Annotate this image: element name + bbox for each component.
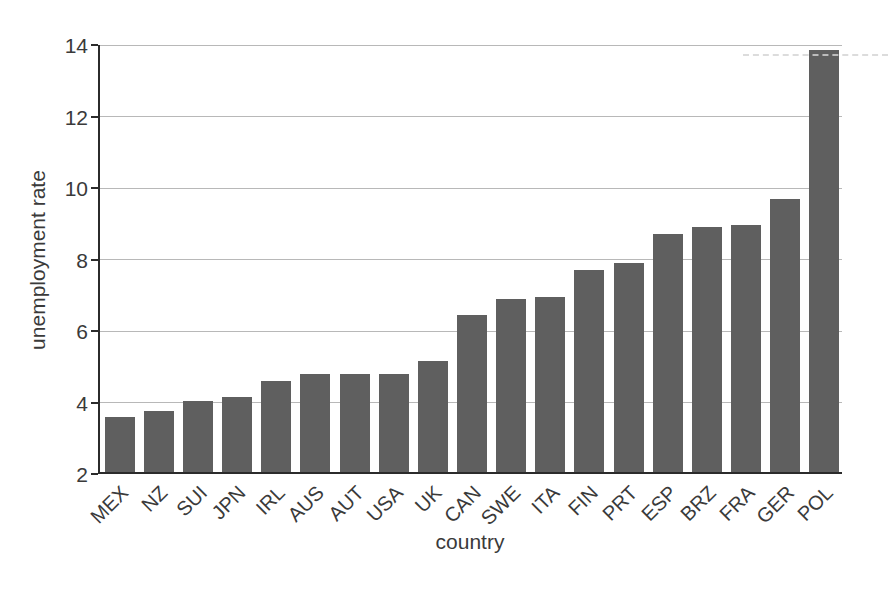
bar-fin [574, 270, 604, 472]
bar-mex [105, 417, 135, 472]
x-tick-label-aus: AUS [284, 482, 327, 525]
bar-ger [770, 199, 800, 472]
bar-sui [183, 401, 213, 473]
x-tick-label-irl: IRL [252, 482, 288, 518]
y-tick-label-8: 8 [50, 250, 88, 271]
bar-uk [418, 361, 448, 472]
bar-fra [731, 225, 761, 472]
x-tick-label-sui: SUI [172, 482, 210, 520]
bar-chart-figure: unemployment rate country 2468101214MEXN… [0, 0, 892, 591]
bar-swe [496, 299, 526, 472]
bar-can [457, 315, 487, 472]
bar-irl [261, 381, 291, 472]
x-tick-label-prt: PRT [599, 482, 641, 524]
y-tick-mark-12 [91, 116, 98, 118]
y-tick-label-4: 4 [50, 393, 88, 414]
x-tick-label-brz: BRZ [677, 482, 719, 524]
bar-prt [614, 263, 644, 472]
plot-area [98, 45, 842, 474]
y-tick-label-6: 6 [50, 321, 88, 342]
y-tick-mark-14 [91, 44, 98, 46]
x-tick-label-mex: MEX [87, 482, 132, 527]
y-tick-label-14: 14 [50, 35, 88, 56]
x-tick-label-ger: GER [753, 482, 798, 527]
bar-ita [535, 297, 565, 472]
gridline-y-10 [100, 188, 842, 189]
y-tick-mark-10 [91, 187, 98, 189]
bar-pol [809, 50, 839, 472]
x-tick-label-can: CAN [440, 482, 484, 526]
bar-brz [692, 227, 722, 472]
bar-esp [653, 234, 683, 472]
bar-nz [144, 411, 174, 472]
bar-usa [379, 374, 409, 472]
x-tick-label-jpn: JPN [208, 482, 249, 523]
y-tick-label-2: 2 [50, 464, 88, 485]
x-tick-label-fin: FIN [565, 482, 602, 519]
x-tick-label-pol: POL [794, 482, 836, 524]
x-tick-label-usa: USA [363, 482, 406, 525]
x-tick-label-fra: FRA [716, 482, 758, 524]
y-axis-title: unemployment rate [26, 170, 50, 350]
y-tick-mark-6 [91, 330, 98, 332]
gridline-y-14 [100, 45, 842, 46]
x-tick-label-aut: AUT [324, 482, 366, 524]
y-tick-mark-2 [91, 473, 98, 475]
bar-aut [340, 374, 370, 472]
gridline-y-12 [100, 116, 842, 117]
x-tick-label-esp: ESP [637, 482, 679, 524]
y-tick-label-12: 12 [50, 107, 88, 128]
x-tick-label-swe: SWE [477, 482, 523, 528]
y-tick-mark-4 [91, 402, 98, 404]
x-tick-label-nz: NZ [138, 482, 171, 515]
x-tick-label-ita: ITA [527, 482, 562, 517]
x-axis-title: country [98, 530, 842, 554]
bar-jpn [222, 397, 252, 472]
y-tick-label-10: 10 [50, 178, 88, 199]
y-tick-mark-8 [91, 259, 98, 261]
bar-aus [300, 374, 330, 472]
scan-smudge-artifact [743, 54, 888, 56]
